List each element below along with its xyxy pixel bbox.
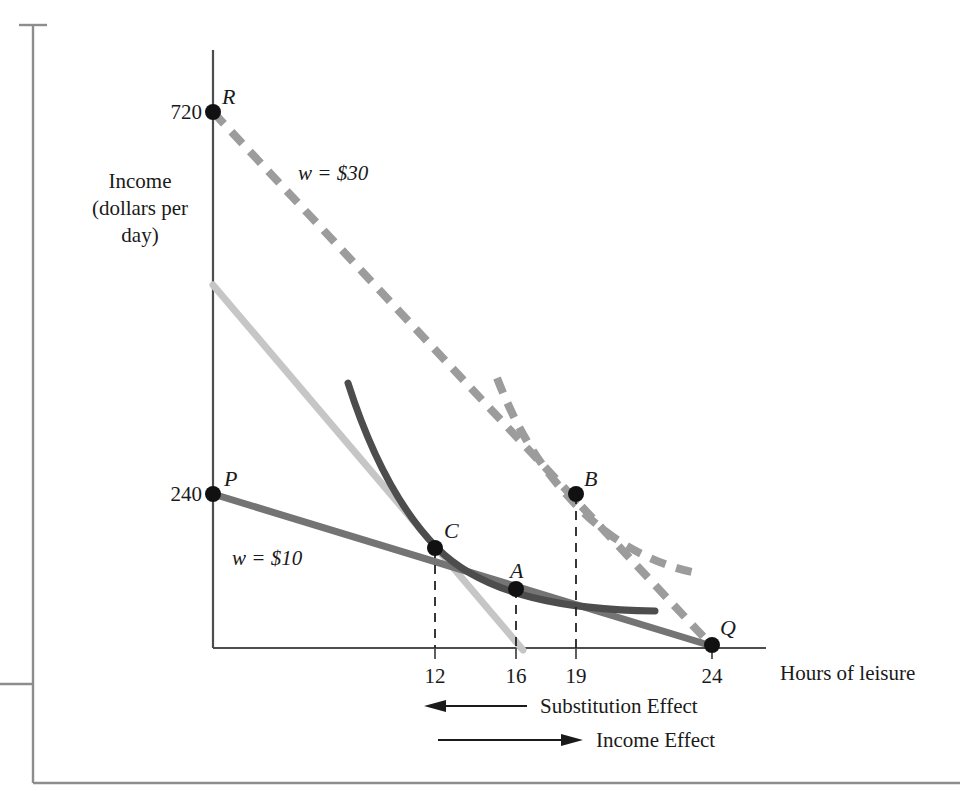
point-label-A: A bbox=[510, 558, 523, 584]
y-axis-title-line-2: (dollars per bbox=[60, 195, 220, 222]
point-B bbox=[568, 486, 584, 502]
point-label-B: B bbox=[584, 466, 597, 492]
x-axis-title: Hours of leisure bbox=[780, 661, 915, 686]
y-tick-label-240: 240 bbox=[150, 482, 202, 507]
x-tick-label-19: 19 bbox=[556, 664, 596, 689]
y-tick-label-720: 720 bbox=[150, 100, 202, 125]
x-axis-ticks bbox=[435, 648, 712, 659]
compensated-budget-line bbox=[213, 285, 523, 650]
point-P bbox=[205, 486, 221, 502]
point-R bbox=[205, 104, 221, 120]
substitution-effect-label: Substitution Effect bbox=[540, 694, 698, 719]
x-tick-label-16: 16 bbox=[496, 664, 536, 689]
y-axis-title: Income (dollars per day) bbox=[60, 168, 220, 249]
wage-label-10: w = $10 bbox=[232, 546, 302, 571]
x-tick-label-24: 24 bbox=[692, 664, 732, 689]
point-Q bbox=[704, 637, 720, 653]
y-axis-title-line-3: day) bbox=[60, 222, 220, 249]
point-C bbox=[427, 540, 443, 556]
point-label-Q: Q bbox=[720, 615, 736, 641]
point-label-R: R bbox=[222, 84, 235, 110]
wage-label-30: w = $30 bbox=[298, 161, 368, 186]
substitution-effect-arrow bbox=[424, 700, 527, 712]
point-label-C: C bbox=[444, 518, 459, 544]
figure-page: Income (dollars per day) 720 240 12 16 1… bbox=[0, 0, 960, 791]
income-effect-arrow bbox=[438, 734, 583, 746]
y-axis-title-line-1: Income bbox=[60, 168, 220, 195]
point-label-P: P bbox=[224, 466, 237, 492]
income-effect-label: Income Effect bbox=[596, 728, 715, 753]
x-tick-label-12: 12 bbox=[415, 664, 455, 689]
